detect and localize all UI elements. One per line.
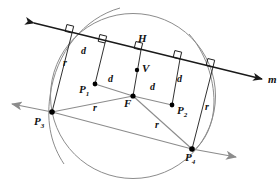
perpendicular-P1-to-m (95, 43, 105, 84)
label-P3-sub: 3 (41, 122, 45, 130)
point-V (135, 68, 139, 72)
label-P1-base: P (79, 83, 86, 95)
diagram-canvas (0, 0, 279, 188)
point-P1 (93, 82, 98, 87)
label-P4-base: P (185, 151, 192, 163)
label-point-P3: P3 (34, 116, 44, 127)
radius-F-P1 (95, 84, 133, 96)
ray-P4-right (192, 149, 236, 157)
radius-F-P2 (133, 96, 172, 105)
label-distance-d-4: d (177, 74, 182, 84)
label-radius-r-1: r (63, 58, 67, 68)
right-angle-marks (65, 25, 214, 67)
label-point-P2: P2 (177, 105, 187, 116)
label-directrix-m: m (268, 74, 277, 85)
label-P4-sub: 4 (192, 158, 196, 166)
label-point-H: H (138, 33, 147, 44)
point-P3 (49, 109, 55, 115)
construction-arc-right (189, 34, 214, 152)
label-radius-r-3: r (155, 120, 159, 130)
point-P2 (170, 103, 175, 108)
label-point-F: F (124, 98, 131, 109)
label-radius-r-2: r (93, 103, 97, 113)
perpendicular-P4-to-m (192, 67, 213, 149)
label-P2-base: P (177, 104, 184, 116)
label-point-P4: P4 (185, 152, 195, 163)
geometry-diagram: F V H P1 P2 P3 P4 m d d d d r r r r (0, 0, 279, 188)
label-P3-base: P (34, 115, 41, 127)
ray-P3-left (12, 104, 52, 112)
label-distance-d-1: d (81, 46, 86, 56)
perpendicular-F-to-m (133, 50, 141, 96)
label-P1-sub: 1 (86, 90, 90, 98)
label-P2-sub: 2 (184, 111, 188, 119)
label-point-V: V (142, 63, 149, 74)
label-distance-d-2: d (108, 74, 113, 84)
label-distance-d-3: d (150, 82, 155, 92)
label-point-P1: P1 (79, 84, 89, 95)
label-radius-r-4: r (205, 102, 209, 112)
